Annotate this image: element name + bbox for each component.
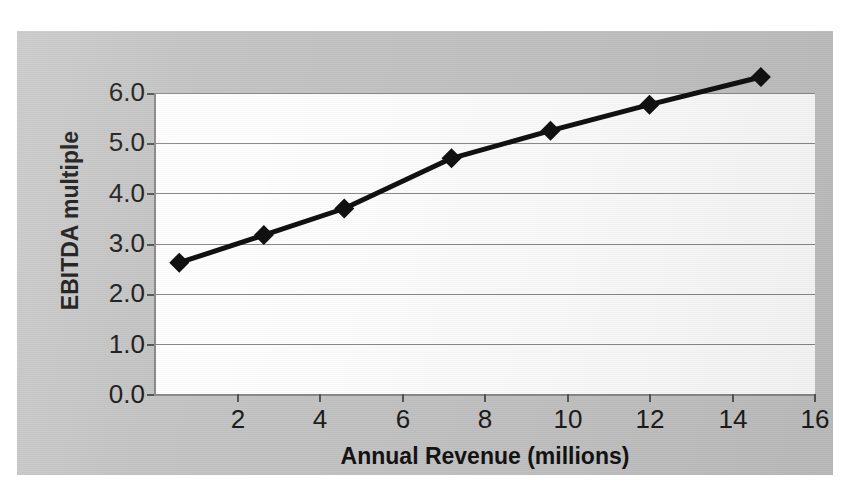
- x-tick-label-6: 6: [373, 406, 433, 432]
- x-tick-mark-2: [237, 394, 239, 402]
- x-tick-label-4: 4: [290, 406, 350, 432]
- x-tick-label-16: 16: [785, 406, 844, 432]
- x-tick-label-8: 8: [455, 406, 515, 432]
- y-tick-mark-5: [147, 143, 154, 145]
- gridline-1: [155, 344, 815, 345]
- x-tick-label-14: 14: [703, 406, 763, 432]
- y-tick-label-0: 0.0: [83, 381, 145, 407]
- y-tick-mark-6: [147, 93, 154, 95]
- y-tick-mark-2: [147, 294, 154, 296]
- chart-backdrop: 6.0 5.0 4.0 3.0 2.0 1.0 0.0 2 4 6 8 10 1…: [17, 31, 833, 475]
- y-tick-label-4: 4.0: [83, 180, 145, 206]
- gridline-2: [155, 294, 815, 295]
- plot-area: [155, 93, 815, 394]
- y-tick-mark-1: [147, 344, 154, 346]
- gridline-4: [155, 193, 815, 194]
- y-tick-label-6: 6.0: [83, 79, 145, 105]
- x-tick-label-12: 12: [620, 406, 680, 432]
- x-tick-label-10: 10: [538, 406, 598, 432]
- y-tick-label-5: 5.0: [83, 129, 145, 155]
- y-tick-mark-3: [147, 244, 154, 246]
- x-axis-title: Annual Revenue (millions): [155, 443, 815, 470]
- x-tick-mark-10: [567, 394, 569, 402]
- y-axis-line: [154, 93, 156, 395]
- y-tick-mark-4: [147, 193, 154, 195]
- y-tick-label-3: 3.0: [83, 230, 145, 256]
- y-tick-label-2: 2.0: [83, 280, 145, 306]
- y-tick-mark-0: [147, 394, 154, 396]
- y-axis-title: EBITDA multiple: [57, 106, 84, 336]
- x-tick-mark-6: [402, 394, 404, 402]
- gridline-6: [155, 93, 815, 94]
- x-tick-mark-4: [319, 394, 321, 402]
- gridline-5: [155, 143, 815, 144]
- y-tick-label-1: 1.0: [83, 331, 145, 357]
- x-tick-mark-14: [732, 394, 734, 402]
- chart-screenshot: 6.0 5.0 4.0 3.0 2.0 1.0 0.0 2 4 6 8 10 1…: [0, 0, 844, 501]
- gridline-3: [155, 244, 815, 245]
- x-tick-label-2: 2: [208, 406, 268, 432]
- x-tick-mark-8: [484, 394, 486, 402]
- x-tick-mark-16: [814, 394, 816, 402]
- x-tick-mark-12: [649, 394, 651, 402]
